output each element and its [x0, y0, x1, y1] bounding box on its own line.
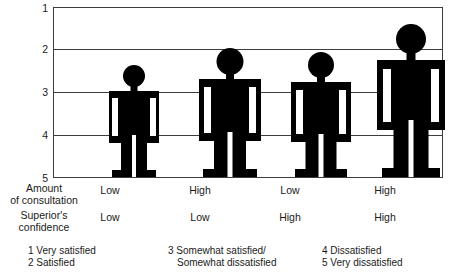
consultation-value-1: Low: [80, 184, 140, 196]
legend-column-2: 3 Somewhat satisfied/ Somewhat dissatisf…: [168, 245, 277, 268]
y-axis-tick-2: 2: [30, 44, 48, 55]
confidence-value-1: Low: [80, 211, 140, 223]
legend-item-3-cont: Somewhat dissatisfied: [168, 257, 277, 269]
row-label-confidence: Superior's confidence: [0, 210, 88, 233]
legend-item-1: 1 Very satisfied: [28, 245, 96, 257]
y-axis-tick-3: 3: [30, 87, 48, 98]
legend-item-3: 3 Somewhat satisfied/: [168, 245, 277, 257]
pictogram-figure-2: [194, 48, 266, 177]
legend-column-1: 1 Very satisfied 2 Satisfied: [28, 245, 96, 268]
row-label-consultation-line1: Amount: [0, 183, 88, 195]
pictogram-chart: 1 2 3 4 5: [0, 0, 449, 279]
plot-area: [53, 7, 443, 178]
legend-item-4: 4 Dissatisfied: [322, 245, 403, 257]
row-label-consultation: Amount of consultation: [0, 183, 88, 206]
confidence-value-4: High: [355, 211, 415, 223]
legend-item-2: 2 Satisfied: [28, 257, 96, 269]
legend-item-5: 5 Very dissatisfied: [322, 257, 403, 269]
consultation-value-4: High: [355, 184, 415, 196]
confidence-value-3: High: [260, 211, 320, 223]
pictogram-figure-1: [104, 65, 164, 177]
consultation-value-3: Low: [260, 184, 320, 196]
pictogram-figure-4: [372, 24, 449, 177]
consultation-value-2: High: [170, 184, 230, 196]
pictogram-figure-3: [286, 52, 356, 177]
y-axis-tick-1: 1: [30, 3, 48, 14]
y-axis-tick-4: 4: [30, 130, 48, 141]
confidence-value-2: Low: [170, 211, 230, 223]
row-label-confidence-line2: confidence: [0, 222, 88, 234]
legend-column-3: 4 Dissatisfied 5 Very dissatisfied: [322, 245, 403, 268]
row-label-consultation-line2: of consultation: [0, 195, 88, 207]
row-label-confidence-line1: Superior's: [0, 210, 88, 222]
